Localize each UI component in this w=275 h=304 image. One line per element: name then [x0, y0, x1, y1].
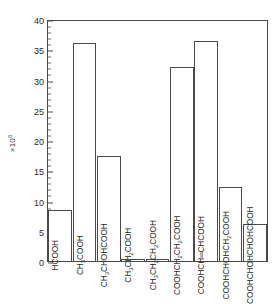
bar-category-label: HCOOH	[52, 240, 60, 270]
y-axis-multiplier-label: ×106	[7, 123, 18, 163]
y-axis-tick-label: 40	[34, 16, 48, 26]
y-axis-multiplier-base: ×10	[8, 138, 17, 152]
y-axis-tick-label: 30	[34, 77, 48, 87]
bars-container: HCOOHCH3COOHCH3CHOHCOOHCH3CH2COOHCH3CH2C…	[48, 21, 267, 261]
bar-category-label: CH3CH2CH2COOH	[149, 220, 157, 290]
y-axis-tick-label: 25	[34, 107, 48, 117]
bar-category-label: COOHCH2CH2COOH	[174, 215, 182, 294]
y-axis-tick-label: 20	[34, 137, 48, 147]
bar-category-label: COOHCHOHCHOHCOOH	[247, 206, 255, 303]
y-axis-tick-label: 15	[34, 167, 48, 177]
y-axis-tick-label: 0	[39, 258, 48, 268]
y-axis-tick-label: 5	[39, 228, 48, 238]
bar-category-label: COOHCH═CHCOOH	[198, 216, 206, 294]
y-axis-tick-label: 10	[34, 198, 48, 208]
bar-category-label: CH3COOH	[76, 235, 84, 275]
y-axis-tick-label: 35	[34, 46, 48, 56]
plot-area: 0510152025303540 HCOOHCH3COOHCH3CHOHCOOH…	[47, 20, 268, 262]
bar-category-label: COOHCHOHCH2COOH	[222, 211, 230, 299]
bar[interactable]	[73, 43, 97, 261]
y-axis-multiplier-exponent: 6	[7, 134, 13, 138]
bar-category-label: CH3CHOHCOOH	[101, 223, 109, 287]
bar-category-label: CH3CH2COOH	[125, 228, 133, 283]
